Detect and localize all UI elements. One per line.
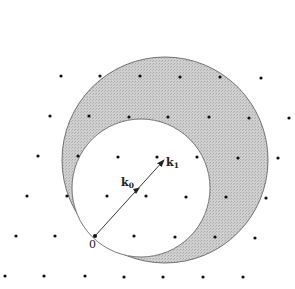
lattice-point: [25, 194, 28, 197]
lattice-point: [3, 274, 6, 277]
lattice-point: [116, 155, 119, 158]
lattice-point: [144, 194, 147, 197]
lattice-point: [236, 156, 239, 159]
lattice-point: [65, 194, 68, 197]
lattice-point: [42, 274, 45, 277]
lattice-point: [155, 155, 158, 158]
lattice-point: [132, 234, 135, 237]
lattice-point: [247, 116, 250, 119]
lattice-point: [195, 155, 198, 158]
small-circle: [72, 119, 210, 257]
lattice-point: [264, 196, 267, 199]
lattice-point: [48, 114, 51, 117]
lattice-point: [98, 74, 101, 77]
lattice-point: [87, 114, 90, 117]
lattice-point: [241, 275, 244, 278]
lattice-point: [138, 74, 141, 77]
lattice-point: [207, 115, 210, 118]
lattice-point: [213, 235, 216, 238]
origin-label: 0: [89, 238, 96, 251]
lattice-point: [105, 194, 108, 197]
lattice-point: [218, 75, 221, 78]
lattice-point: [127, 115, 130, 118]
ewald-construction-diagram: 0 k0 k1: [0, 0, 295, 289]
lattice-point: [83, 274, 86, 277]
lattice-point: [122, 275, 125, 278]
lattice-point: [201, 275, 204, 278]
lattice-point: [184, 195, 187, 198]
lattice-point: [59, 74, 62, 77]
lattice-point: [224, 195, 227, 198]
lattice-point: [53, 234, 56, 237]
lattice-point: [276, 156, 279, 159]
lattice-point: [178, 75, 181, 78]
lattice-point: [161, 275, 164, 278]
lattice-point: [166, 115, 169, 118]
lattice-point: [76, 154, 79, 157]
lattice-point: [173, 235, 176, 238]
lattice-point: [259, 76, 262, 79]
lattice-point: [14, 234, 17, 237]
lattice-point: [253, 236, 256, 239]
lattice-point: [287, 116, 290, 119]
lattice-point: [36, 154, 39, 157]
